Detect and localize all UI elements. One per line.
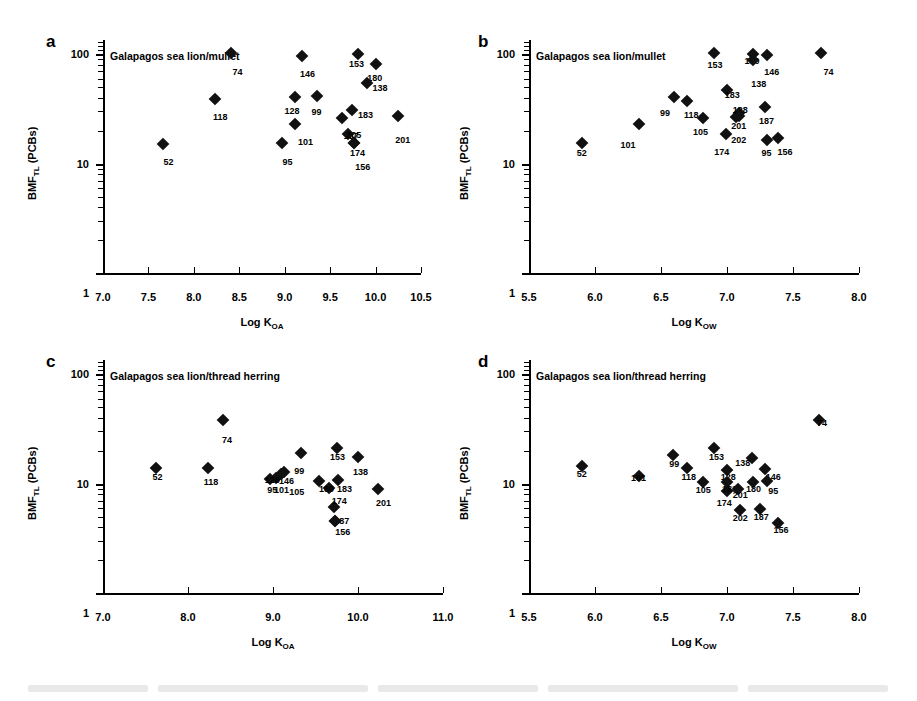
y-tick-minor-130-a bbox=[98, 42, 103, 43]
data-point-label-174-b: 174 bbox=[714, 147, 729, 157]
data-point-label-128-c: 128 bbox=[265, 475, 280, 485]
y-tick-minor-20-b bbox=[524, 131, 529, 132]
x-tick-7.5-d bbox=[793, 587, 794, 593]
data-point-156-d bbox=[772, 516, 785, 529]
y-axis-title-sub: TL bbox=[32, 486, 41, 496]
y-axis-line-c bbox=[103, 360, 105, 595]
data-point-label-153-c: 153 bbox=[330, 452, 345, 462]
data-point-180-a bbox=[369, 57, 382, 70]
data-point-label-95-a: 95 bbox=[282, 157, 292, 167]
data-point-101-a bbox=[288, 118, 301, 131]
y-axis-title-main: BMF bbox=[458, 496, 470, 520]
y-axis-title-sub: TL bbox=[464, 486, 473, 496]
y-tick-minor-90-b bbox=[524, 59, 529, 60]
y-tick-minor-70-c bbox=[98, 391, 103, 392]
y-tick-minor-70-b bbox=[524, 71, 529, 72]
data-point-label-187-d: 187 bbox=[754, 512, 769, 522]
data-point-105-c bbox=[313, 475, 326, 488]
y-tick-label-1-d: 1 bbox=[509, 607, 515, 619]
x-tick-8.5-a bbox=[239, 267, 240, 273]
x-axis-title-c: Log KOA bbox=[251, 636, 294, 651]
data-point-101-b bbox=[632, 118, 645, 131]
x-tick-6.0-d bbox=[595, 587, 596, 593]
data-point-label-187-c: 187 bbox=[334, 516, 349, 526]
data-point-label-118-a: 118 bbox=[213, 112, 228, 122]
data-point-74-d bbox=[813, 414, 826, 427]
x-tick-label-11.0-c: 11.0 bbox=[433, 611, 454, 623]
data-point-label-74-a: 74 bbox=[232, 67, 242, 77]
y-tick-minor-50-a bbox=[98, 87, 103, 88]
y-axis-title-a: BMFTL (PCBs) bbox=[26, 127, 41, 200]
plot-area-a: 1101007.07.58.08.59.09.510.010.552118749… bbox=[103, 40, 421, 273]
x-axis-line-d bbox=[529, 593, 859, 595]
y-axis-title-tail: (PCBs) bbox=[26, 447, 38, 487]
x-tick-label-6.0-d: 6.0 bbox=[587, 611, 602, 623]
y-tick-minor-60-c bbox=[98, 399, 103, 400]
x-tick-9.0-c bbox=[273, 587, 274, 593]
data-point-118-c bbox=[201, 461, 214, 474]
data-point-201-c bbox=[372, 483, 385, 496]
y-tick-minor-7-d bbox=[524, 501, 529, 502]
data-point-label-156-d: 156 bbox=[774, 525, 789, 535]
x-tick-6.5-b bbox=[661, 267, 662, 273]
data-point-label-74-d: 74 bbox=[817, 418, 827, 428]
y-tick-minor-80-c bbox=[98, 385, 103, 386]
data-point-label-118-c: 118 bbox=[204, 477, 219, 487]
x-tick-label-6.5-d: 6.5 bbox=[653, 611, 668, 623]
data-point-180-b bbox=[747, 47, 760, 60]
y-axis-title-tail: (PCBs) bbox=[458, 127, 470, 167]
data-point-label-146-c: 146 bbox=[279, 476, 294, 486]
x-axis-title-sub: OA bbox=[272, 322, 284, 331]
y-tick-minor-130-c bbox=[98, 362, 103, 363]
data-point-label-99-a: 99 bbox=[311, 107, 321, 117]
data-point-74-b bbox=[814, 47, 827, 60]
data-point-99-a bbox=[310, 90, 323, 103]
y-tick-minor-7-a bbox=[98, 181, 103, 182]
x-tick-8.0-a bbox=[194, 267, 195, 273]
data-point-156-b bbox=[772, 132, 785, 145]
data-point-label-202-b: 202 bbox=[731, 135, 746, 145]
data-point-label-118-b: 118 bbox=[684, 110, 699, 120]
x-tick-label-7.0-b: 7.0 bbox=[719, 291, 734, 303]
x-tick-label-5.5-d: 5.5 bbox=[521, 611, 536, 623]
y-tick-minor-40-a bbox=[98, 98, 103, 99]
panel-b: bGalapagos sea lion/mulletBMFTL (PCBs)11… bbox=[0, 0, 917, 701]
data-point-label-101-d: 101 bbox=[631, 473, 646, 483]
data-point-label-138-d: 138 bbox=[735, 458, 750, 468]
data-point-label-146-d: 146 bbox=[766, 472, 781, 482]
y-tick-minor-70-a bbox=[98, 71, 103, 72]
data-point-180-c bbox=[323, 482, 336, 495]
data-point-174-d bbox=[721, 485, 734, 498]
data-point-138-d bbox=[746, 452, 759, 465]
y-tick-minor-4-d bbox=[524, 527, 529, 528]
data-point-label-183-d: 183 bbox=[722, 484, 737, 494]
data-point-183-b bbox=[721, 84, 734, 97]
data-point-101-d bbox=[632, 469, 645, 482]
y-axis-line-b bbox=[529, 40, 531, 275]
y-tick-label-1-a: 1 bbox=[83, 287, 89, 299]
x-tick-9.5-a bbox=[330, 267, 331, 273]
y-tick-minor-3-d bbox=[524, 541, 529, 542]
data-point-label-201-d: 201 bbox=[733, 490, 748, 500]
x-axis-title-main: Log K bbox=[672, 636, 703, 648]
y-tick-minor-4-a bbox=[98, 207, 103, 208]
data-point-128-c bbox=[274, 468, 287, 481]
data-point-label-138-c: 138 bbox=[353, 467, 368, 477]
y-axis-title-c: BMFTL (PCBs) bbox=[26, 447, 41, 520]
data-point-label-95-d: 95 bbox=[768, 486, 778, 496]
y-axis-title-b: BMFTL (PCBs) bbox=[458, 127, 473, 200]
y-tick-major-1-c bbox=[96, 593, 103, 595]
panel-a: aGalapagos sea lion/mulletBMFTL (PCBs)11… bbox=[0, 0, 917, 701]
data-point-label-118-d: 118 bbox=[681, 472, 696, 482]
y-tick-major-100-a bbox=[96, 54, 103, 56]
data-point-label-52-b: 52 bbox=[577, 148, 587, 158]
y-tick-minor-30-c bbox=[98, 431, 103, 432]
plot-area-c: 1101007.08.09.010.011.052118749510114612… bbox=[103, 360, 443, 593]
x-axis-title-sub: OW bbox=[703, 322, 717, 331]
data-point-label-52-c: 52 bbox=[152, 472, 162, 482]
data-point-187-a bbox=[336, 112, 349, 125]
y-tick-minor-30-a bbox=[98, 111, 103, 112]
x-tick-7.0-a bbox=[103, 267, 104, 273]
data-point-99-d bbox=[667, 448, 680, 461]
data-point-99-c bbox=[295, 447, 308, 460]
